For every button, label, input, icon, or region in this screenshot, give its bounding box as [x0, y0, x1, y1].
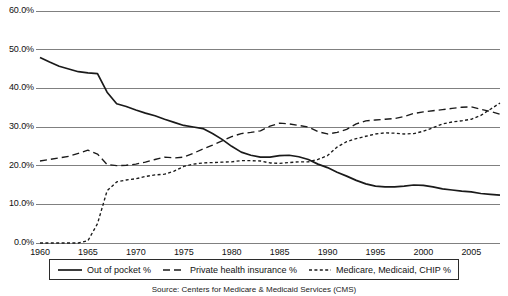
chart-legend: Out of pocket %Private health insurance … [49, 259, 459, 280]
y-tick-label: 10.0% [0, 198, 34, 208]
legend-item[interactable]: Out of pocket % [57, 265, 151, 275]
legend-swatch-dotted-icon [308, 266, 332, 274]
y-tick-label: 50.0% [0, 44, 34, 54]
x-tick-label: 1975 [164, 247, 204, 257]
legend-swatch-dashed-icon [162, 266, 186, 274]
legend-swatch-solid-icon [57, 266, 83, 274]
y-tick-label: 40.0% [0, 82, 34, 92]
y-tick-label: 20.0% [0, 160, 34, 170]
y-tick-label: 0.0% [0, 237, 34, 247]
x-tick-label: 1990 [308, 247, 348, 257]
x-tick-label: 1980 [212, 247, 252, 257]
source-caption: Source: Centers for Medicare & Medicaid … [0, 285, 508, 294]
x-tick-label: 1965 [68, 247, 108, 257]
x-tick-label: 1995 [355, 247, 395, 257]
y-tick-label: 30.0% [0, 121, 34, 131]
legend-item[interactable]: Private health insurance % [162, 265, 297, 275]
x-tick-label: 1985 [260, 247, 300, 257]
legend-label: Out of pocket % [87, 265, 151, 275]
legend-label: Medicare, Medicaid, CHIP % [336, 265, 451, 275]
series-line-2 [40, 103, 500, 243]
x-tick-label: 1960 [20, 247, 60, 257]
legend-item[interactable]: Medicare, Medicaid, CHIP % [308, 265, 451, 275]
x-tick-label: 2005 [451, 247, 491, 257]
x-tick-label: 1970 [116, 247, 156, 257]
y-tick-label: 60.0% [0, 5, 34, 15]
x-tick-label: 2000 [403, 247, 443, 257]
chart-container: 0.0%10.0%20.0%30.0%40.0%50.0%60.0% 19601… [0, 0, 508, 296]
legend-label: Private health insurance % [190, 265, 297, 275]
